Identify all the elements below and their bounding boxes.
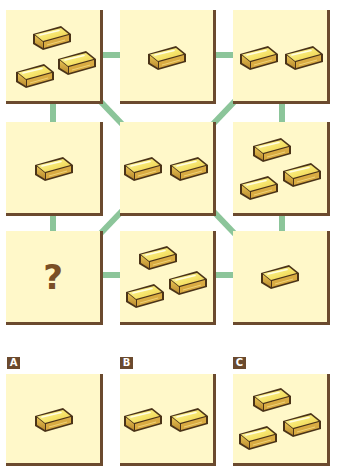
grid-cell-r3c2 bbox=[120, 231, 216, 325]
grid-cell-r3c1-missing: ? bbox=[6, 231, 103, 325]
gold-bar-icon bbox=[233, 231, 330, 325]
gold-bar-icon bbox=[6, 374, 103, 466]
gold-bar-icon bbox=[120, 10, 216, 104]
option-c-label: C bbox=[233, 357, 246, 369]
gold-bar-icon bbox=[233, 10, 330, 104]
grid-cell-r3c3 bbox=[233, 231, 330, 325]
gold-bar-icon bbox=[6, 122, 103, 216]
option-c[interactable] bbox=[233, 374, 330, 466]
gold-bar-icon bbox=[120, 122, 216, 216]
gold-bar-icon bbox=[120, 231, 216, 325]
grid-cell-r1c3 bbox=[233, 10, 330, 104]
grid-cell-r1c1 bbox=[6, 10, 103, 104]
grid-cell-r1c2 bbox=[120, 10, 216, 104]
grid-cell-r2c3 bbox=[233, 122, 330, 216]
option-b[interactable] bbox=[120, 374, 216, 466]
grid-cell-r2c1 bbox=[6, 122, 103, 216]
option-b-label: B bbox=[120, 357, 133, 369]
gold-bar-icon bbox=[120, 374, 216, 466]
grid-cell-r2c2 bbox=[120, 122, 216, 216]
gold-bar-icon bbox=[6, 10, 103, 104]
gold-bar-icon bbox=[233, 374, 330, 466]
gold-bar-icon bbox=[233, 122, 330, 216]
option-a-label: A bbox=[7, 357, 20, 369]
question-mark: ? bbox=[6, 231, 100, 322]
puzzle-stage: ? A B C bbox=[0, 0, 344, 467]
option-a[interactable] bbox=[6, 374, 103, 466]
